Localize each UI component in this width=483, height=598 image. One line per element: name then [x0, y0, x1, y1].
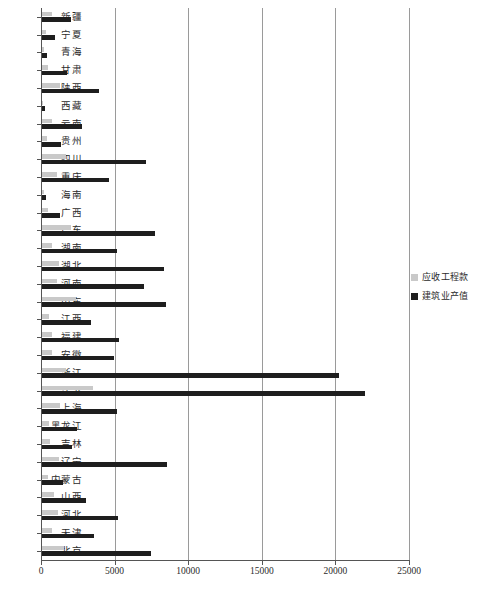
- bar-天津-应收工程款[interactable]: [42, 528, 52, 533]
- bar-山东-建筑业产值[interactable]: [42, 302, 166, 307]
- bar-湖北-应收工程款[interactable]: [42, 261, 59, 266]
- bar-row: 北京: [0, 542, 483, 560]
- bar-海南-建筑业产值[interactable]: [42, 195, 46, 200]
- bar-广西-应收工程款[interactable]: [42, 208, 48, 213]
- bar-黑龙江-应收工程款[interactable]: [42, 421, 49, 426]
- bar-group: [42, 26, 410, 44]
- bar-山西-建筑业产值[interactable]: [42, 498, 86, 503]
- bar-上海-建筑业产值[interactable]: [42, 409, 117, 414]
- bar-浙江-应收工程款[interactable]: [42, 368, 66, 373]
- bar-贵州-建筑业产值[interactable]: [42, 142, 61, 147]
- bar-宁夏-应收工程款[interactable]: [42, 30, 46, 35]
- bar-安徽-建筑业产值[interactable]: [42, 356, 114, 361]
- dark-swatch: [411, 293, 418, 300]
- bar-row: 江西: [0, 311, 483, 329]
- y-tick: [37, 248, 41, 249]
- chart-legend: 应收工程款 建筑业产值: [411, 272, 483, 310]
- bar-福建-应收工程款[interactable]: [42, 332, 52, 337]
- bar-河北-应收工程款[interactable]: [42, 510, 58, 515]
- bar-福建-建筑业产值[interactable]: [42, 338, 119, 343]
- bar-group: [42, 364, 410, 382]
- y-tick: [37, 52, 41, 53]
- bar-group: [42, 506, 410, 524]
- bar-甘肃-应收工程款[interactable]: [42, 65, 48, 70]
- bar-湖南-建筑业产值[interactable]: [42, 249, 117, 254]
- bar-新疆-应收工程款[interactable]: [42, 12, 52, 17]
- bar-广东-建筑业产值[interactable]: [42, 231, 155, 236]
- bar-甘肃-建筑业产值[interactable]: [42, 71, 67, 76]
- bar-天津-建筑业产值[interactable]: [42, 534, 94, 539]
- bar-江西-建筑业产值[interactable]: [42, 320, 91, 325]
- bar-北京-应收工程款[interactable]: [42, 546, 64, 551]
- bar-广西-建筑业产值[interactable]: [42, 213, 60, 218]
- bar-group: [42, 133, 410, 151]
- bar-黑龙江-建筑业产值[interactable]: [42, 427, 77, 432]
- bar-河南-建筑业产值[interactable]: [42, 284, 144, 289]
- bar-新疆-建筑业产值[interactable]: [42, 17, 71, 22]
- bar-河北-建筑业产值[interactable]: [42, 516, 118, 521]
- bar-浙江-建筑业产值[interactable]: [42, 373, 339, 378]
- y-tick: [37, 497, 41, 498]
- y-tick: [37, 177, 41, 178]
- bar-江苏-建筑业产值[interactable]: [42, 391, 365, 396]
- bar-云南-建筑业产值[interactable]: [42, 124, 82, 129]
- legend-item-1[interactable]: 建筑业产值: [411, 291, 483, 301]
- bar-group: [42, 328, 410, 346]
- bar-吉林-建筑业产值[interactable]: [42, 445, 72, 450]
- bar-group: [42, 275, 410, 293]
- bar-山西-应收工程款[interactable]: [42, 492, 54, 497]
- bar-青海-建筑业产值[interactable]: [42, 53, 47, 58]
- bar-云南-应收工程款[interactable]: [42, 119, 52, 124]
- bar-内蒙古-建筑业产值[interactable]: [42, 480, 63, 485]
- bar-row: 山西: [0, 489, 483, 507]
- bar-北京-建筑业产值[interactable]: [42, 551, 151, 556]
- bar-重庆-建筑业产值[interactable]: [42, 178, 109, 183]
- bar-辽宁-建筑业产值[interactable]: [42, 462, 167, 467]
- bar-安徽-应收工程款[interactable]: [42, 350, 52, 355]
- bar-重庆-应收工程款[interactable]: [42, 172, 57, 177]
- bar-row: 河北: [0, 506, 483, 524]
- bar-江西-应收工程款[interactable]: [42, 314, 49, 319]
- bar-row: 江苏: [0, 382, 483, 400]
- bar-陕西-应收工程款[interactable]: [42, 83, 60, 88]
- y-tick: [37, 106, 41, 107]
- y-tick: [37, 408, 41, 409]
- bar-吉林-应收工程款[interactable]: [42, 439, 50, 444]
- bar-河南-应收工程款[interactable]: [42, 279, 57, 284]
- bar-宁夏-建筑业产值[interactable]: [42, 35, 55, 40]
- bar-辽宁-应收工程款[interactable]: [42, 457, 59, 462]
- bar-西藏-应收工程款[interactable]: [42, 101, 43, 106]
- bar-广东-应收工程款[interactable]: [42, 225, 71, 230]
- bar-group: [42, 542, 410, 560]
- bar-海南-应收工程款[interactable]: [42, 190, 44, 195]
- y-tick: [37, 337, 41, 338]
- bar-group: [42, 168, 410, 186]
- legend-item-0[interactable]: 应收工程款: [411, 272, 483, 282]
- bar-四川-建筑业产值[interactable]: [42, 160, 146, 165]
- y-tick: [37, 355, 41, 356]
- chart-canvas: 新疆宁夏青海甘肃陕西西藏云南贵州四川重庆海南广西广东湖南湖北河南山东江西福建安徽…: [0, 0, 483, 598]
- bar-上海-应收工程款[interactable]: [42, 403, 60, 408]
- y-tick: [37, 141, 41, 142]
- bar-西藏-建筑业产值[interactable]: [42, 106, 45, 111]
- bar-row: 新疆: [0, 8, 483, 26]
- bar-row: 黑龙江: [0, 417, 483, 435]
- x-tick-15000: [262, 561, 263, 565]
- bar-贵州-应收工程款[interactable]: [42, 136, 47, 141]
- x-tick-label-15000: 15000: [250, 566, 274, 577]
- y-tick: [37, 444, 41, 445]
- bar-湖北-建筑业产值[interactable]: [42, 267, 164, 272]
- x-tick-label-25000: 25000: [397, 566, 421, 577]
- x-tick-label-5000: 5000: [105, 566, 124, 577]
- x-tick-10000: [188, 561, 189, 565]
- bar-湖南-应收工程款[interactable]: [42, 243, 52, 248]
- bar-group: [42, 222, 410, 240]
- bar-陕西-建筑业产值[interactable]: [42, 89, 99, 94]
- bar-江苏-应收工程款[interactable]: [42, 386, 93, 391]
- bar-group: [42, 293, 410, 311]
- bar-group: [42, 115, 410, 133]
- bar-山东-应收工程款[interactable]: [42, 297, 76, 302]
- bar-四川-应收工程款[interactable]: [42, 154, 66, 159]
- bar-青海-应收工程款[interactable]: [42, 47, 44, 52]
- bar-内蒙古-应收工程款[interactable]: [42, 475, 48, 480]
